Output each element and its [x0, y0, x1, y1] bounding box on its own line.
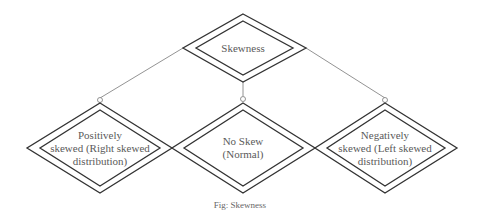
label-line: distribution)	[338, 155, 431, 168]
label-line: skewed (Left skewed	[338, 142, 431, 155]
connector-node-right	[383, 98, 388, 103]
root-node-label: Skewness	[221, 42, 264, 55]
connector-right	[306, 48, 385, 98]
figure-caption: Fig: Skewness	[0, 200, 480, 210]
label-line: distribution)	[50, 155, 150, 168]
label-line: (Normal)	[223, 148, 264, 161]
positive-skew-label: Positively skewed (Right skewed distribu…	[50, 129, 150, 168]
connector-node-middle	[241, 97, 246, 102]
connector-left	[100, 48, 183, 98]
negative-skew-label: Negatively skewed (Left skewed distribut…	[338, 129, 431, 168]
no-skew-label: No Skew (Normal)	[223, 135, 264, 161]
label-line: Negatively	[338, 129, 431, 142]
label-line: skewed (Right skewed	[50, 142, 150, 155]
connector-node-left	[98, 98, 103, 103]
diagram-canvas	[0, 0, 480, 217]
label-line: Positively	[50, 129, 150, 142]
label-line: No Skew	[223, 135, 264, 148]
